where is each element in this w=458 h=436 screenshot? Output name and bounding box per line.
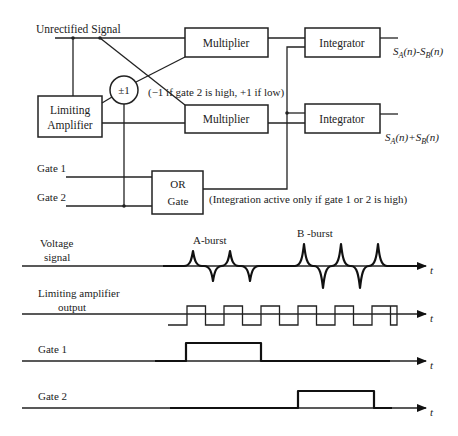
voltage-signal-label-2: signal: [44, 251, 70, 263]
time-axis-label: t: [430, 312, 434, 324]
time-axis-label: t: [430, 359, 434, 371]
or-gate-label-1: OR: [170, 178, 186, 190]
limiting-amplifier-square-wave: [168, 306, 397, 325]
output-top-label: SA(n)-SB(n): [393, 45, 443, 60]
voltage-signal-label-1: Voltage: [40, 237, 74, 249]
block-diagram: Unrectified Signal Limiting Amplifier ±1…: [36, 23, 443, 214]
integrator-bottom-label: Integrator: [319, 113, 365, 126]
gate1-pulse: [155, 343, 390, 361]
gate2-pulse: [170, 391, 392, 408]
sign-inverter-label: ±1: [118, 84, 130, 96]
limiting-output-label-2: output: [58, 301, 86, 313]
sign-note: (−1 if gate 2 is high, +1 if low): [148, 86, 284, 99]
b-burst-label: B -burst: [297, 227, 333, 239]
integrator-top-label: Integrator: [319, 37, 365, 50]
multiplier-top-label: Multiplier: [203, 37, 250, 50]
multiplier-bottom-label: Multiplier: [203, 113, 250, 126]
integration-note: (Integration active only if gate 1 or 2 …: [209, 193, 408, 206]
diagram-canvas: Unrectified Signal Limiting Amplifier ±1…: [0, 0, 458, 436]
time-axis-label: t: [430, 264, 434, 276]
gate1-input-label: Gate 1: [37, 162, 66, 174]
gate2-input-label: Gate 2: [37, 191, 66, 203]
gate1-timing-label: Gate 1: [38, 343, 67, 355]
output-bottom-label: SA(n)+SB(n): [385, 131, 439, 146]
limiting-output-label-1: Limiting amplifier: [38, 287, 120, 299]
limiting-amplifier-label-2: Amplifier: [47, 119, 93, 132]
wire-amp-to-sign: [102, 97, 112, 103]
a-burst-label: A-burst: [193, 234, 227, 246]
time-axis-label: t: [430, 406, 434, 418]
timing-diagram: Voltage signal A-burst B -burst t Limiti…: [22, 227, 434, 418]
wire-sign-to-top-multiplier: [136, 57, 185, 82]
gate2-timing-label: Gate 2: [38, 390, 67, 402]
input-signal-label: Unrectified Signal: [36, 23, 121, 36]
junction-dot: [285, 111, 289, 115]
limiting-amplifier-label-1: Limiting: [50, 104, 91, 117]
or-gate-label-2: Gate: [168, 195, 189, 207]
